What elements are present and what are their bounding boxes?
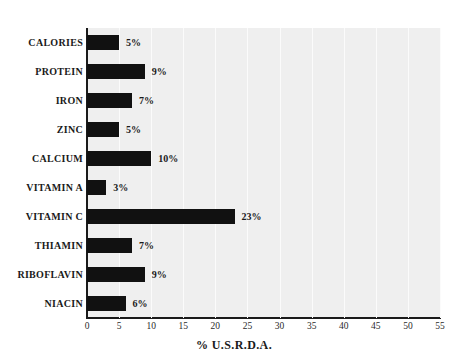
bar: [87, 122, 119, 137]
bar-row: VITAMIN C23%: [0, 202, 468, 231]
bar-row: VITAMIN A3%: [0, 173, 468, 202]
x-tick-label: 10: [146, 321, 156, 331]
bar: [87, 151, 151, 166]
bar: [87, 35, 119, 50]
x-tick-label: 50: [403, 321, 413, 331]
category-label: CALORIES: [28, 28, 83, 57]
bar: [87, 93, 132, 108]
x-tick-label: 25: [243, 321, 253, 331]
x-axis-title: % U.S.R.D.A.: [0, 338, 468, 353]
bar-value-label: 7%: [139, 231, 154, 260]
bar-value-label: 9%: [152, 57, 167, 86]
bar-value-label: 5%: [126, 28, 141, 57]
x-tick-label: 0: [85, 321, 90, 331]
bar-value-label: 6%: [133, 289, 148, 318]
bar-chart: CALORIES5%PROTEIN9%IRON7%ZINC5%CALCIUM10…: [0, 0, 468, 363]
x-tick-label: 55: [435, 321, 445, 331]
bar-value-label: 23%: [242, 202, 262, 231]
x-tick-label: 35: [307, 321, 317, 331]
bar-row: RIBOFLAVIN9%: [0, 260, 468, 289]
category-label: RIBOFLAVIN: [17, 260, 83, 289]
bar: [87, 296, 126, 311]
bar-row: CALORIES5%: [0, 28, 468, 57]
x-tick-label: 45: [371, 321, 381, 331]
bar-row: THIAMIN7%: [0, 231, 468, 260]
category-label: CALCIUM: [32, 144, 83, 173]
bar-value-label: 7%: [139, 86, 154, 115]
bar: [87, 209, 235, 224]
x-tick-label: 40: [339, 321, 349, 331]
bar-value-label: 10%: [158, 144, 178, 173]
category-label: THIAMIN: [35, 231, 83, 260]
category-label: VITAMIN A: [26, 173, 83, 202]
category-label: IRON: [56, 86, 83, 115]
bar-row: PROTEIN9%: [0, 57, 468, 86]
bar-value-label: 5%: [126, 115, 141, 144]
bar: [87, 267, 145, 282]
bar: [87, 180, 106, 195]
category-label: NIACIN: [45, 289, 83, 318]
bar: [87, 238, 132, 253]
bar-value-label: 3%: [113, 173, 128, 202]
category-label: PROTEIN: [35, 57, 83, 86]
bar-row: IRON7%: [0, 86, 468, 115]
x-tick-label: 15: [179, 321, 189, 331]
bar: [87, 64, 145, 79]
x-tick-label: 30: [275, 321, 285, 331]
bar-row: CALCIUM10%: [0, 144, 468, 173]
category-label: ZINC: [57, 115, 83, 144]
category-label: VITAMIN C: [26, 202, 83, 231]
bar-value-label: 9%: [152, 260, 167, 289]
x-tick-label: 5: [117, 321, 122, 331]
x-tick-label: 20: [211, 321, 221, 331]
bar-row: NIACIN6%: [0, 289, 468, 318]
bar-row: ZINC5%: [0, 115, 468, 144]
